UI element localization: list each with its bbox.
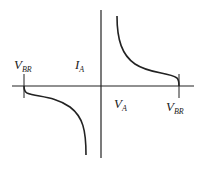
left-breakdown-label: VBR — [14, 58, 32, 74]
iv-diagram: IA VA VBR VBR — [0, 0, 203, 169]
reverse-curve — [24, 86, 86, 155]
right-breakdown-label: VBR — [166, 100, 184, 116]
current-axis-label: IA — [75, 58, 84, 74]
forward-curve — [117, 16, 179, 86]
voltage-axis-label: VA — [114, 97, 127, 113]
diagram-graphic — [0, 0, 203, 169]
